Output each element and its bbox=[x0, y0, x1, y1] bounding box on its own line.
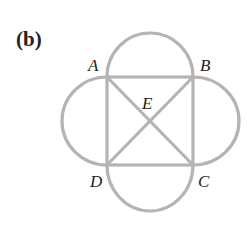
semicircle-bottom bbox=[107, 165, 193, 211]
semicircle-top bbox=[107, 33, 193, 77]
label-d: D bbox=[89, 172, 103, 191]
semicircle-right bbox=[193, 77, 239, 165]
label-b: B bbox=[200, 56, 211, 75]
label-a: A bbox=[87, 56, 99, 75]
diagram: (b) A B C D E bbox=[0, 0, 247, 244]
panel-label: (b) bbox=[16, 27, 42, 51]
label-e: E bbox=[141, 94, 153, 113]
label-c: C bbox=[198, 172, 210, 191]
semicircle-left bbox=[62, 77, 107, 165]
